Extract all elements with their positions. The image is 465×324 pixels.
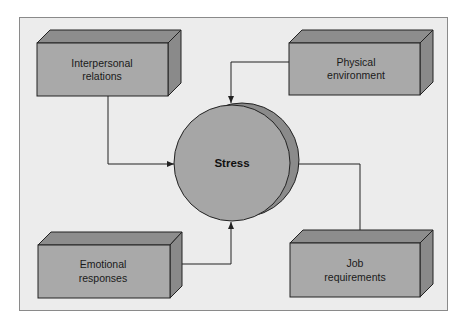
- box-top-face: [37, 30, 181, 43]
- box-top-face: [289, 30, 433, 43]
- factor-label-line2: environment: [327, 69, 385, 81]
- factor-box-emotional: Emotional responses: [38, 232, 182, 298]
- factor-box-job: Job requirements: [290, 230, 433, 297]
- factor-label-line1: Emotional: [80, 258, 127, 270]
- factor-box-physical: Physical environment: [289, 30, 433, 95]
- stress-label: Stress: [214, 157, 249, 169]
- box-front-face: [290, 243, 420, 297]
- factor-label-line2: relations: [82, 70, 122, 82]
- factor-label-line2: requirements: [324, 271, 385, 283]
- factor-label-line1: Job: [347, 257, 364, 269]
- box-top-face: [38, 232, 182, 245]
- box-top-face: [290, 230, 433, 243]
- factor-label-line2: responses: [79, 272, 127, 284]
- factor-box-interpersonal: Interpersonal relations: [37, 30, 181, 96]
- stress-diagram: Stress Interpersonal relations Physical …: [0, 0, 465, 324]
- factor-label-line1: Interpersonal: [71, 57, 132, 69]
- factor-label-line1: Physical: [336, 56, 375, 68]
